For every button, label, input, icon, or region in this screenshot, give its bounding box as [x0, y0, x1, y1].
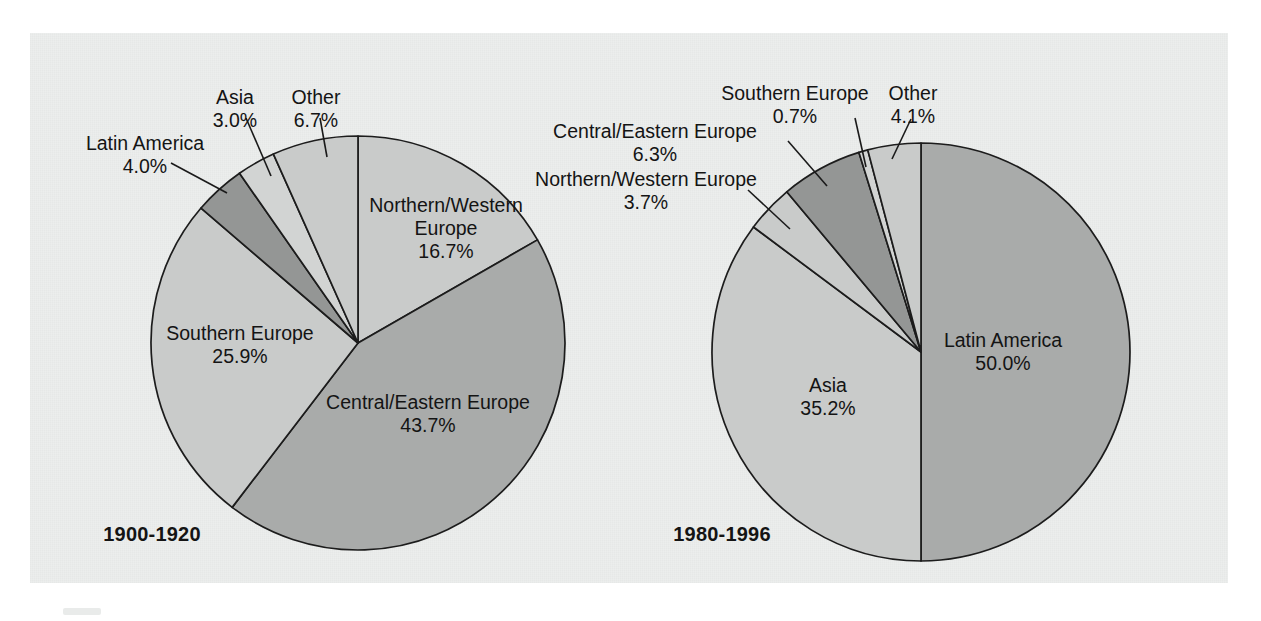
slice-value-text: 0.7% — [773, 105, 817, 127]
slice-value-text: 6.7% — [294, 109, 338, 131]
chart-1980-1996: Latin America50.0%Asia35.2%Northern/West… — [535, 82, 1130, 561]
slice-label: Other6.7% — [292, 86, 341, 131]
pie-charts-figure: Northern/WesternEurope16.7%Central/Easte… — [0, 0, 1261, 621]
slice-value-text: 4.1% — [891, 105, 935, 127]
slice-label: Other4.1% — [889, 82, 938, 127]
slice-label: Central/Eastern Europe6.3% — [553, 120, 757, 165]
slice-value-text: 16.7% — [418, 240, 473, 262]
slice-name-text: Other — [292, 86, 341, 108]
slice-value-text: 3.7% — [624, 191, 668, 213]
figure-root: Northern/WesternEurope16.7%Central/Easte… — [0, 0, 1261, 621]
label-leader-line — [171, 163, 227, 193]
slice-name-text: Europe — [415, 217, 478, 239]
slice-value-text: 35.2% — [800, 397, 855, 419]
slice-name-text: Asia — [216, 86, 254, 108]
slice-label: Latin America4.0% — [86, 132, 204, 177]
slice-name-text: Northern/Western Europe — [535, 168, 757, 190]
slice-name-text: Central/Eastern Europe — [326, 391, 530, 413]
slice-name-text: Other — [889, 82, 938, 104]
slice-name-text: Latin America — [944, 329, 1062, 351]
slice-name-text: Latin America — [86, 132, 204, 154]
charts-layer: Northern/WesternEurope16.7%Central/Easte… — [86, 82, 1130, 561]
slice-value-text: 50.0% — [975, 352, 1030, 374]
slice-name-text: Southern Europe — [166, 322, 313, 344]
slice-value-text: 25.9% — [212, 345, 267, 367]
slice-value-text: 6.3% — [633, 143, 677, 165]
chart-1900-1920: Northern/WesternEurope16.7%Central/Easte… — [86, 86, 565, 550]
slice-label: Northern/Western Europe3.7% — [535, 168, 757, 213]
slice-name-text: Northern/Western — [369, 194, 523, 216]
slice-value-text: 43.7% — [400, 414, 455, 436]
slice-name-text: Central/Eastern Europe — [553, 120, 757, 142]
slice-value-text: 3.0% — [213, 109, 257, 131]
slice-value-text: 4.0% — [123, 155, 167, 177]
slice-name-text: Southern Europe — [721, 82, 868, 104]
slice-label: Asia3.0% — [213, 86, 257, 131]
chart-caption: 1980-1996 — [673, 523, 770, 545]
chart-caption: 1900-1920 — [103, 523, 200, 545]
slice-name-text: Asia — [809, 374, 847, 396]
